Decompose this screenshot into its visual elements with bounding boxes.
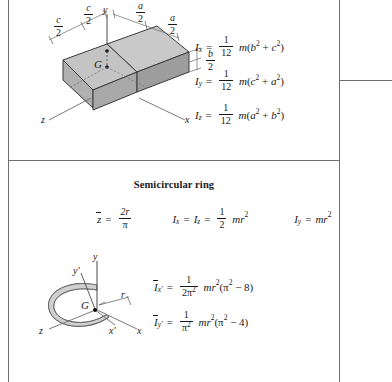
ring-axis-label-x-prime: x′	[109, 325, 116, 336]
semicircular-ring-title: Semicircular ring	[9, 179, 339, 190]
ring-radius-label-r: r	[121, 289, 125, 300]
ring-axis-label-x: x	[137, 325, 141, 336]
prism-formula-Iy: Iy = 112 m(c2 + a2)	[195, 64, 340, 98]
ring-axis-label-z: z	[39, 325, 43, 336]
semicircular-ring-figure: y y′ z x′ x r G	[37, 253, 152, 345]
panel-semicircular-ring: Semicircular ring z = 2rπ Ix = Iz = 12 m…	[9, 161, 339, 382]
ring-formula-Iyprime-bar: Iy′ = 1 π2 mr2(π2 − 4)	[154, 304, 344, 339]
reference-table-page: y z x G c2 c2 a2 a2 b2 Ix	[0, 0, 392, 382]
ring-primary-formula-row: z = 2rπ Ix = Iz = 12 mr2 Iy =	[9, 207, 339, 230]
ring-formula-list: Ix′ = 1 2π2 mr2(π2 − 8) Iy′ = 1 π2	[154, 269, 344, 339]
ring-formula-zbar: z = 2rπ	[97, 207, 134, 230]
ring-axis-label-y-prime: y′	[73, 265, 80, 276]
ring-svg	[37, 253, 152, 345]
ring-formula-Iy: Iy = mr2	[294, 213, 331, 225]
prism-axis-label-y: y	[103, 4, 107, 15]
rectangular-prism-figure: y z x G c2 c2 a2 a2 b2	[29, 4, 214, 136]
ring-formula-Ix-Iz: Ix = Iz = 12 mr2	[172, 207, 248, 230]
prism-centroid-label-G: G	[94, 58, 102, 70]
prism-dimension-c-half-left: c2	[51, 14, 66, 38]
prism-formula-Iz: Iz = 112 m(a2 + b2)	[195, 98, 340, 132]
panel-rectangular-prism: y z x G c2 c2 a2 a2 b2 Ix	[9, 0, 339, 160]
prism-dimension-a-half-left: a2	[133, 0, 148, 24]
right-margin-rule	[340, 80, 392, 81]
ring-centroid-label-G: G	[81, 299, 89, 311]
prism-dimension-a-half-right: a2	[165, 12, 180, 36]
prism-formula-Ix: Ix = 112 m(b2 + c2)	[195, 30, 340, 64]
ring-formula-Ixprime-bar: Ix′ = 1 2π2 mr2(π2 − 8)	[154, 269, 344, 304]
prism-formula-list: Ix = 112 m(b2 + c2) Iy = 112 m(c2 + a2) …	[195, 30, 340, 132]
prism-dimension-c-half-right: c2	[81, 2, 96, 26]
prism-axis-label-z: z	[41, 114, 45, 125]
ring-axis-label-y: y	[93, 251, 97, 262]
prism-axis-label-x: x	[185, 114, 189, 125]
